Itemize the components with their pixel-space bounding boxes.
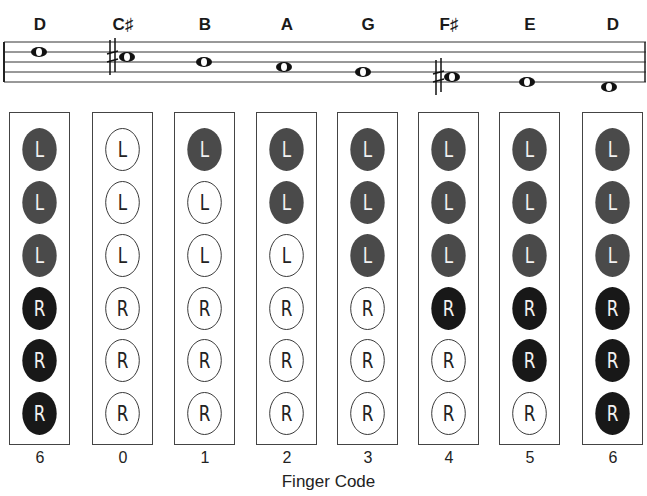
note-label: C♯ [103, 15, 143, 35]
note-label: D [20, 15, 60, 35]
finger-hole-r-closed: R [22, 339, 56, 382]
finger-code: 6 [593, 449, 633, 467]
hole-label: R [607, 402, 619, 426]
hole-label: R [362, 297, 374, 321]
finger-hole-r-closed: R [595, 287, 629, 330]
hole-label: R [443, 402, 455, 426]
finger-hole-r-open: R [350, 287, 384, 330]
hole-label: L [525, 138, 534, 162]
finger-code: 2 [267, 449, 307, 467]
fingering-column: LLLRRR [256, 112, 317, 445]
hole-label: L [200, 138, 209, 162]
hole-label: L [444, 138, 453, 162]
fingering-column: LLLRRR [418, 112, 479, 445]
hole-label: L [35, 191, 44, 215]
hole-label: R [443, 297, 455, 321]
hole-label: R [199, 402, 211, 426]
hole-label: R [281, 402, 293, 426]
finger-hole-r-closed: R [595, 339, 629, 382]
finger-hole-r-open: R [105, 339, 139, 382]
fingering-column: LLLRRR [92, 112, 153, 445]
hole-label: L [363, 138, 372, 162]
finger-code: 5 [510, 449, 550, 467]
finger-hole-l-closed: L [187, 128, 221, 171]
note-label: B [185, 15, 225, 35]
hole-label: L [118, 191, 127, 215]
fingering-column: LLLRRR [337, 112, 398, 445]
finger-hole-l-closed: L [431, 128, 465, 171]
finger-hole-l-open: L [187, 181, 221, 224]
finger-hole-l-closed: L [350, 234, 384, 277]
note-label: D [593, 15, 633, 35]
note-label: E [510, 15, 550, 35]
note-label: F♯ [429, 15, 469, 35]
finger-hole-r-closed: R [595, 392, 629, 435]
hole-label: R [281, 297, 293, 321]
finger-hole-r-closed: R [22, 287, 56, 330]
finger-hole-r-open: R [350, 339, 384, 382]
finger-hole-r-open: R [187, 392, 221, 435]
finger-hole-l-open: L [105, 234, 139, 277]
finger-hole-l-closed: L [269, 181, 303, 224]
finger-hole-r-open: R [431, 392, 465, 435]
finger-hole-l-closed: L [595, 128, 629, 171]
fingering-column: LLLRRR [174, 112, 235, 445]
hole-label: L [118, 138, 127, 162]
finger-code: 3 [348, 449, 388, 467]
hole-label: L [282, 191, 291, 215]
hole-label: L [608, 244, 617, 268]
finger-hole-l-closed: L [22, 128, 56, 171]
finger-hole-l-open: L [105, 181, 139, 224]
hole-label: R [199, 349, 211, 373]
hole-label: R [199, 297, 211, 321]
hole-label: L [282, 138, 291, 162]
finger-hole-r-open: R [269, 392, 303, 435]
hole-label: R [34, 402, 46, 426]
note-label: G [348, 15, 388, 35]
hole-label: R [281, 349, 293, 373]
hole-label: R [524, 349, 536, 373]
hole-label: R [34, 349, 46, 373]
finger-hole-r-open: R [269, 287, 303, 330]
finger-hole-l-closed: L [350, 181, 384, 224]
finger-hole-l-closed: L [269, 128, 303, 171]
hole-label: R [117, 349, 129, 373]
finger-hole-r-closed: R [431, 287, 465, 330]
finger-hole-r-open: R [187, 339, 221, 382]
hole-label: L [444, 191, 453, 215]
hole-label: R [607, 349, 619, 373]
axis-title: Finger Code [0, 472, 647, 492]
fingering-column: LLLRRR [499, 112, 560, 445]
finger-hole-l-closed: L [512, 181, 546, 224]
fingering-column: LLLRRR [9, 112, 70, 445]
hole-label: L [363, 191, 372, 215]
hole-label: L [444, 244, 453, 268]
hole-label: L [200, 191, 209, 215]
hole-label: R [117, 402, 129, 426]
hole-label: R [524, 297, 536, 321]
finger-hole-r-open: R [105, 287, 139, 330]
note-label: A [267, 15, 307, 35]
hole-label: R [362, 402, 374, 426]
finger-hole-l-closed: L [350, 128, 384, 171]
hole-label: L [200, 244, 209, 268]
finger-hole-l-closed: L [595, 181, 629, 224]
finger-hole-l-closed: L [431, 234, 465, 277]
hole-label: L [118, 244, 127, 268]
finger-hole-r-closed: R [22, 392, 56, 435]
finger-hole-r-open: R [512, 392, 546, 435]
finger-hole-r-closed: R [512, 287, 546, 330]
hole-label: L [608, 191, 617, 215]
hole-label: R [443, 349, 455, 373]
fingering-column: LLLRRR [582, 112, 643, 445]
hole-label: R [34, 297, 46, 321]
finger-code: 6 [20, 449, 60, 467]
finger-hole-r-open: R [350, 392, 384, 435]
hole-label: R [607, 297, 619, 321]
finger-hole-l-closed: L [22, 234, 56, 277]
finger-hole-r-open: R [269, 339, 303, 382]
finger-hole-r-open: R [105, 392, 139, 435]
finger-code: 0 [103, 449, 143, 467]
finger-hole-r-closed: R [512, 339, 546, 382]
finger-hole-l-closed: L [512, 128, 546, 171]
